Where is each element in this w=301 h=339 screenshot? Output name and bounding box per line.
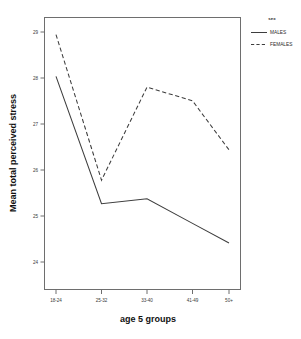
- chart-svg: 29 28 27 26 25 24 18-24 25-32 33-40 41-4…: [0, 0, 301, 339]
- x-tick-label-50plus: 50+: [225, 298, 233, 303]
- x-axis-title: age 5 groups: [120, 314, 176, 324]
- y-tick-label-28: 28: [33, 76, 39, 81]
- y-tick-label-25: 25: [33, 214, 39, 219]
- y-tick-label-29: 29: [33, 30, 39, 35]
- chart-figure: 29 28 27 26 25 24 18-24 25-32 33-40 41-4…: [0, 0, 301, 339]
- y-axis-title: Mean total perceived stress: [8, 94, 18, 212]
- legend-label-males: MALES: [270, 30, 286, 35]
- y-tick-label-27: 27: [33, 122, 39, 127]
- y-tick-label-24: 24: [33, 260, 39, 265]
- x-tick-label-18-24: 18-24: [50, 298, 62, 303]
- legend-title: sex: [268, 16, 276, 21]
- legend-label-females: FEMALES: [270, 42, 292, 47]
- x-tick-label-25-32: 25-32: [96, 298, 108, 303]
- figure-background: [0, 0, 301, 339]
- y-tick-label-26: 26: [33, 168, 39, 173]
- x-tick-label-33-40: 33-40: [141, 298, 153, 303]
- x-tick-label-41-49: 41-49: [187, 298, 199, 303]
